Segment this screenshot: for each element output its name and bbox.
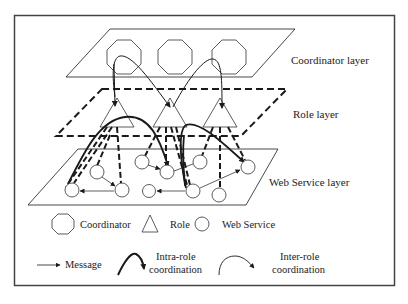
web-service-node	[212, 188, 226, 202]
role-triangle-2	[153, 98, 187, 127]
web-service-node	[160, 165, 174, 179]
layered-architecture-diagram: Coordinator layer Role layer Web Service…	[0, 0, 408, 304]
coordinator-layer-label: Coordinator layer	[291, 54, 369, 66]
legend-coordinator-label: Coordinator	[80, 219, 131, 230]
legend-intra-role-label-2: coordination	[149, 264, 203, 275]
web-service-nodes	[65, 155, 255, 202]
web-service-node	[115, 183, 129, 197]
web-service-node	[65, 183, 79, 197]
webservice-layer-label: Web Service layer	[269, 176, 350, 188]
web-service-node	[90, 165, 104, 179]
legend-coordinator-icon	[52, 214, 74, 234]
role-layer: Role layer	[56, 89, 339, 136]
legend-intra-role-label-1: Intra-role	[156, 251, 196, 262]
web-service-node	[143, 185, 156, 198]
web-service-node	[241, 160, 255, 174]
web-service-node	[135, 155, 149, 169]
role-triangle-1	[100, 98, 134, 127]
legend-role-icon	[142, 215, 158, 232]
legend-message-label: Message	[65, 259, 102, 270]
legend-web-service-label: Web Service	[222, 219, 275, 230]
coordinator-octagon-1	[107, 40, 141, 74]
coordinator-octagon-3	[212, 40, 246, 74]
role-layer-label: Role layer	[293, 108, 339, 120]
web-service-node	[186, 184, 200, 198]
coordinator-layer: Coordinator layer	[66, 29, 369, 77]
role-triangle-3	[203, 98, 237, 127]
legend-inter-role-icon	[219, 256, 254, 275]
legend-web-service-icon	[195, 217, 209, 231]
legend-intra-role-icon	[118, 254, 144, 275]
message-arrows	[80, 164, 240, 191]
coordinator-octagon-2	[158, 40, 192, 74]
legend-inter-role-label-1: Inter-role	[280, 251, 320, 262]
web-service-node	[193, 155, 207, 169]
legend-role-label: Role	[170, 219, 190, 230]
legend-inter-role-label-2: coordination	[272, 264, 326, 275]
legend: Coordinator Role Web Service Message Int…	[37, 214, 326, 275]
